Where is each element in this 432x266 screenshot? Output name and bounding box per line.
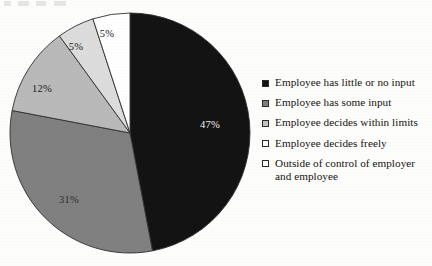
pie-svg: 47%31%12%5%5% bbox=[0, 0, 262, 266]
legend-swatch-icon bbox=[262, 100, 269, 107]
pie-slice-value-label: 12% bbox=[32, 83, 52, 94]
legend-item: Outside of control of employer and emplo… bbox=[262, 157, 432, 183]
legend-item: Employee decides within limits bbox=[262, 116, 432, 129]
legend-item-label: Employee decides within limits bbox=[275, 116, 418, 129]
pie-slice-value-label: 47% bbox=[200, 119, 220, 130]
legend-swatch-icon bbox=[262, 140, 269, 147]
chart-legend: Employee has little or no inputEmployee … bbox=[262, 76, 432, 183]
legend-item-label: Outside of control of employer and emplo… bbox=[275, 157, 415, 183]
legend-item: Employee decides freely bbox=[262, 137, 432, 150]
legend-item-label: Employee decides freely bbox=[275, 137, 387, 150]
legend-item-label: Employee has little or no input bbox=[275, 76, 415, 89]
pie-slices bbox=[10, 13, 250, 253]
legend-swatch-icon bbox=[262, 160, 269, 167]
pie-slice-value-label: 5% bbox=[69, 41, 83, 52]
chart-page: 47%31%12%5%5% Employee has little or no … bbox=[0, 0, 432, 266]
pie-slice-value-label: 31% bbox=[59, 194, 79, 205]
legend-swatch-icon bbox=[262, 120, 269, 127]
pie-slice-value-label: 5% bbox=[100, 28, 114, 39]
legend-item: Employee has some input bbox=[262, 96, 432, 109]
legend-item: Employee has little or no input bbox=[262, 76, 432, 89]
pie-slice bbox=[130, 13, 250, 251]
legend-swatch-icon bbox=[262, 80, 269, 87]
pie-chart: 47%31%12%5%5% bbox=[0, 0, 262, 266]
legend-item-label: Employee has some input bbox=[275, 96, 391, 109]
